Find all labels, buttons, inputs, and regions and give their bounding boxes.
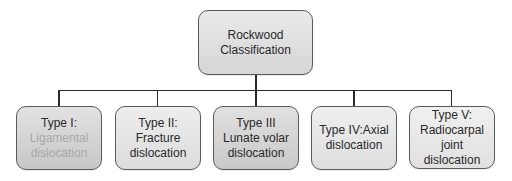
connector-drop-type-5 xyxy=(451,90,453,106)
node-type-5-desc-2: joint xyxy=(420,138,484,153)
node-type-4: Type IV:Axial dislocation xyxy=(311,106,397,170)
node-type-4-desc-1: dislocation xyxy=(319,138,389,153)
root-line-2: Classification xyxy=(220,43,291,58)
root-line-1: Rockwood xyxy=(220,28,291,43)
root-node-label: Rockwood Classification xyxy=(216,28,295,58)
root-node-rockwood-classification: Rockwood Classification xyxy=(198,10,313,75)
connector-drop-type-4 xyxy=(353,90,355,106)
node-type-3-title: Type III xyxy=(223,116,289,131)
node-type-3: Type III Lunate volar dislocation xyxy=(213,106,299,170)
node-type-2: Type II: Fracture dislocation xyxy=(115,106,201,170)
node-type-2-desc-2: dislocation xyxy=(130,146,187,161)
node-type-1-desc-1: Ligamental xyxy=(30,131,89,146)
node-type-3-label: Type III Lunate volar dislocation xyxy=(219,116,293,161)
node-type-3-desc-2: dislocation xyxy=(223,146,289,161)
node-type-5-label: Type V: Radiocarpal joint dislocation xyxy=(416,108,488,168)
node-type-1: Type I: Ligamental dislocation xyxy=(16,106,102,170)
node-type-1-label: Type I: Ligamental dislocation xyxy=(26,116,93,161)
connector-drop-type-2 xyxy=(157,90,159,106)
node-type-4-label: Type IV:Axial dislocation xyxy=(315,123,393,153)
node-type-5-title: Type V: xyxy=(420,108,484,123)
node-type-5-desc-1: Radiocarpal xyxy=(420,123,484,138)
node-type-5-desc-3: dislocation xyxy=(420,153,484,168)
connector-drop-type-3 xyxy=(255,90,257,106)
node-type-3-desc-1: Lunate volar xyxy=(223,131,289,146)
node-type-4-title: Type IV:Axial xyxy=(319,123,389,138)
node-type-2-title: Type II: xyxy=(130,116,187,131)
node-type-2-label: Type II: Fracture dislocation xyxy=(126,116,191,161)
connector-drop-type-1 xyxy=(58,90,60,106)
node-type-2-desc-1: Fracture xyxy=(130,131,187,146)
node-type-5: Type V: Radiocarpal joint dislocation xyxy=(409,106,495,169)
node-type-1-title: Type I: xyxy=(30,116,89,131)
node-type-1-desc-2: dislocation xyxy=(30,146,89,161)
